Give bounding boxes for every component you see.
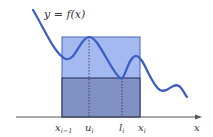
tick-label-x-i: xi xyxy=(138,122,146,135)
function-label: y = f(x) xyxy=(43,8,85,21)
tick-label-u: ui xyxy=(85,122,94,135)
x-axis-arrow-icon xyxy=(195,115,202,120)
tick-label-x-prev: xi−1 xyxy=(55,122,72,135)
riemann-sum-diagram: y = f(x) xi−1 ui li xi x xyxy=(0,0,213,137)
lower-rectangle xyxy=(62,78,140,117)
axis-label-x: x xyxy=(194,122,200,133)
tick-label-l: li xyxy=(119,122,124,135)
